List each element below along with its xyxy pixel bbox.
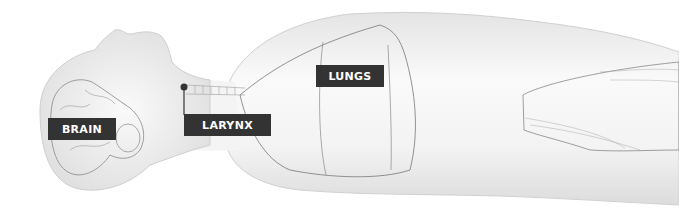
anatomy-diagram: BRAIN LARYNX LUNGS [0,0,679,210]
body-illustration [0,0,679,210]
torso-shape [228,12,679,205]
larynx-label: LARYNX [184,114,271,136]
lungs-label: LUNGS [316,65,384,87]
brain-label: BRAIN [48,118,116,140]
